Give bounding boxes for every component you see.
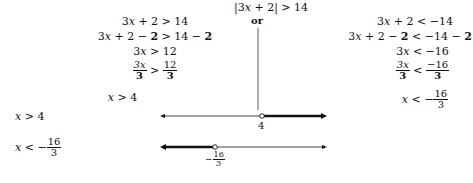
number-lines-diagram	[0, 0, 473, 183]
point-label-neg-16-3: −163	[205, 151, 225, 168]
open-point-neg-16-3	[213, 145, 218, 150]
open-point-4	[260, 114, 265, 119]
number-line-2	[160, 144, 327, 150]
point-label-4: 4	[258, 120, 264, 131]
number-line-1	[160, 113, 327, 119]
